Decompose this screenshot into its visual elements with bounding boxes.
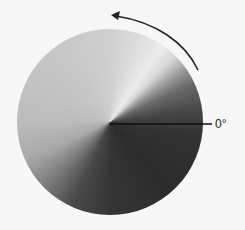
- rotation-arrow-icon: [116, 16, 198, 70]
- arrowhead-icon: [111, 11, 120, 20]
- zero-degree-label: 0°: [215, 117, 226, 131]
- diagram-overlay: [0, 0, 245, 230]
